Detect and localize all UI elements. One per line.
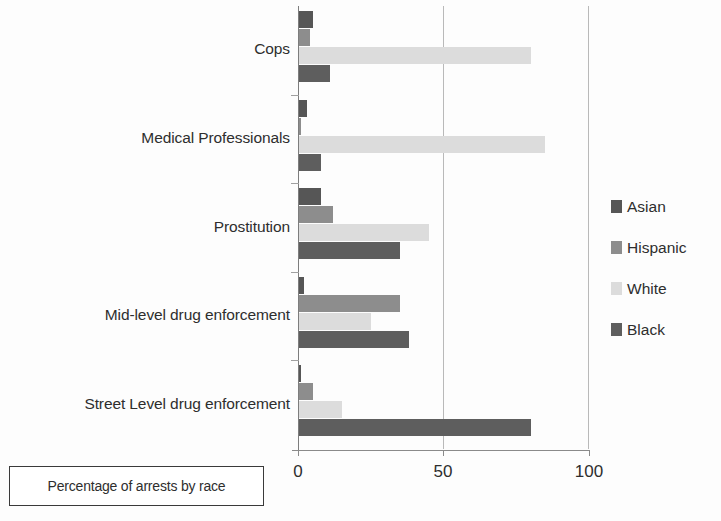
bar-group [298, 360, 589, 449]
category-label: Mid-level drug enforcement [6, 306, 290, 324]
bar-hispanic [298, 29, 310, 46]
plot-area [298, 6, 589, 449]
caption-box: Percentage of arrests by race [9, 466, 264, 506]
category-axis-labels: CopsMedical ProfessionalsProstitutionMid… [0, 6, 290, 449]
bar-black [298, 65, 330, 82]
legend-item-white[interactable]: White [611, 268, 719, 309]
bar-black [298, 242, 400, 259]
bar-white [298, 313, 371, 330]
legend-item-hispanic[interactable]: Hispanic [611, 227, 719, 268]
x-tick-label-100: 100 [559, 462, 619, 482]
bar-black [298, 419, 531, 436]
legend-swatch-black [611, 323, 622, 336]
x-tick-mark-50 [443, 450, 444, 456]
bar-chart-figure: CopsMedical ProfessionalsProstitutionMid… [0, 0, 721, 521]
x-tick-label-50: 50 [413, 462, 473, 482]
bar-group [298, 183, 589, 272]
bar-hispanic [298, 206, 333, 223]
category-tick [291, 272, 299, 273]
bar-black [298, 154, 321, 171]
bar-group [298, 6, 589, 95]
legend-label: Black [627, 321, 665, 339]
bar-asian [298, 11, 313, 28]
bar-white [298, 224, 429, 241]
category-label: Prostitution [6, 218, 290, 236]
bar-group [298, 272, 589, 361]
x-tick-label-0: 0 [268, 462, 328, 482]
legend-swatch-white [611, 282, 622, 295]
bar-white [298, 47, 531, 64]
bar-black [298, 331, 409, 348]
bar-white [298, 401, 342, 418]
legend-swatch-asian [611, 200, 622, 213]
bar-asian [298, 100, 307, 117]
legend-label: Asian [627, 198, 666, 216]
legend-label: White [627, 280, 667, 298]
category-tick [291, 183, 299, 184]
category-tick [291, 95, 299, 96]
bar-asian [298, 188, 321, 205]
category-label: Street Level drug enforcement [6, 395, 290, 413]
legend-item-black[interactable]: Black [611, 309, 719, 350]
x-tick-mark-100 [589, 450, 590, 456]
value-axis-line [298, 6, 299, 450]
caption-text: Percentage of arrests by race [48, 478, 226, 494]
legend-item-asian[interactable]: Asian [611, 186, 719, 227]
chart-legend: AsianHispanicWhiteBlack [611, 186, 719, 350]
category-label: Medical Professionals [6, 129, 290, 147]
category-tick [291, 360, 299, 361]
bar-group [298, 95, 589, 184]
category-axis-line [292, 450, 590, 451]
bar-hispanic [298, 383, 313, 400]
bar-hispanic [298, 295, 400, 312]
legend-label: Hispanic [627, 239, 686, 257]
legend-swatch-hispanic [611, 241, 622, 254]
category-label: Cops [6, 40, 290, 58]
bar-white [298, 136, 545, 153]
x-tick-mark-0 [298, 450, 299, 456]
